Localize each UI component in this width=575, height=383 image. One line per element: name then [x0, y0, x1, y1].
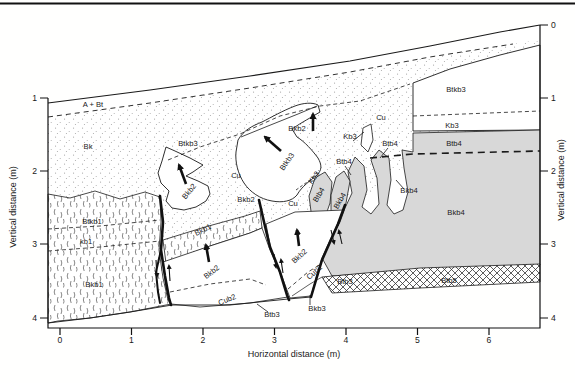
unit-label-bkb4-mid: Bkb4: [400, 186, 417, 195]
y-right-tick: 1: [551, 93, 556, 103]
x-tick: 0: [58, 335, 63, 345]
unit-label-kb3-top: Kb3: [343, 132, 357, 141]
unit-label-btkb3-east: Btkb3: [446, 85, 465, 94]
x-tick: 6: [487, 335, 492, 345]
y-left-tick: 4: [32, 313, 37, 323]
unit-label-btb4-mid: Btb4: [336, 157, 352, 166]
y-left-axis-title: Vertical distance (m): [8, 166, 18, 248]
unit-label-cu-top: Cu: [376, 113, 386, 122]
unit-label-bkb3-bottom: Bkb3: [308, 304, 325, 313]
cross-section-figure: 0 1 2 3 4 5 6 1 2 3 4 0 1 2 3 4 Horizont…: [0, 0, 575, 383]
x-axis-title: Horizontal distance (m): [248, 349, 341, 359]
region-bkb1-west: [48, 191, 171, 323]
x-tick: 5: [415, 335, 420, 345]
unit-label-btb5: Btb5: [441, 276, 457, 285]
unit-label-bkb1-west: Bkb1: [85, 280, 102, 289]
unit-label-btb4-east: Btb4: [446, 139, 462, 148]
unit-label-bk: Bk: [84, 142, 93, 151]
y-left-tick: 2: [32, 166, 37, 176]
y-left-tick: 1: [32, 93, 37, 103]
y-right-tick: 4: [551, 313, 556, 323]
y-right-tick: 0: [551, 20, 556, 30]
x-tick-labels: 0 1 2 3 4 5 6: [58, 335, 492, 345]
y-right-axis-title: Vertical distance (m): [556, 139, 566, 221]
y-right-tick: 3: [551, 239, 556, 249]
unit-label-btb4-top: Btb4: [382, 139, 398, 148]
x-tick: 1: [129, 335, 134, 345]
unit-label-kb3-east: Kb3: [445, 121, 459, 130]
unit-label-bkb4-east: Bkb4: [447, 208, 464, 217]
unit-label-cu-west: Cu: [231, 171, 241, 180]
left-tick-labels: 1 2 3 4: [32, 93, 37, 323]
unit-label-bkb2-mid: Bkb2: [237, 195, 254, 204]
unit-label-cu-center: Cu: [288, 199, 298, 208]
x-axis-ticks: [60, 328, 489, 335]
x-tick: 4: [344, 335, 349, 345]
unit-label-a-bt: A + Bt: [83, 100, 104, 109]
left-axis-ticks: [40, 98, 48, 318]
y-left-tick: 3: [32, 239, 37, 249]
unit-label-btb3-bottom: Btb3: [264, 310, 280, 319]
right-axis-ticks: [540, 25, 548, 318]
unit-label-btb3-band: Btb3: [337, 277, 353, 286]
unit-label-kb1: kb1: [80, 237, 92, 246]
figure-page: { "figure": { "kind": "trench-log cross-…: [0, 0, 575, 383]
unit-label-bkb2-top: Bkb2: [288, 124, 305, 133]
x-tick: 2: [201, 335, 206, 345]
unit-label-btkb1: Btkb1: [82, 217, 101, 226]
x-tick: 3: [272, 335, 277, 345]
unit-label-btkb3-upper: Btkb3: [178, 139, 197, 148]
